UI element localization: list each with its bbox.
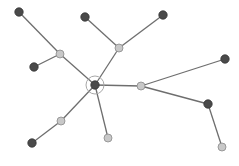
node-d2[interactable] [30,63,38,71]
node-d4[interactable] [159,11,167,19]
edge-c-l5 [61,85,95,121]
edges-layer [19,12,225,147]
node-d6[interactable] [204,100,212,108]
edge-l1-d1 [19,12,60,54]
node-l6[interactable] [104,134,112,142]
node-l4[interactable] [218,143,226,151]
node-l1[interactable] [56,50,64,58]
node-d5[interactable] [221,55,229,63]
edge-c-l1 [60,54,95,85]
edge-l3-d6 [141,86,208,104]
edge-c-l6 [95,85,108,138]
edge-d6-l4 [208,104,222,147]
node-l3[interactable] [137,82,145,90]
network-diagram [0,0,239,166]
node-d3[interactable] [81,13,89,21]
nodes-layer [15,8,229,151]
node-d1[interactable] [15,8,23,16]
node-l2[interactable] [115,44,123,52]
edge-l2-d4 [119,15,163,48]
node-l5[interactable] [57,117,65,125]
edge-c-l2 [95,48,119,85]
edge-l3-d5 [141,59,225,86]
edge-l5-d7 [32,121,61,143]
node-c[interactable] [91,81,99,89]
edge-c-l3 [95,85,141,86]
edge-l2-d3 [85,17,119,48]
node-d7[interactable] [28,139,36,147]
